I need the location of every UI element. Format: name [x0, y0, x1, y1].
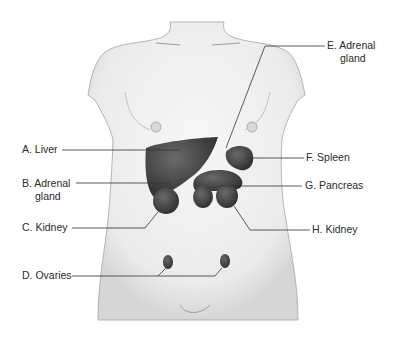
label-adrenal-gland-b: B. Adrenal	[22, 177, 70, 190]
label-adrenal-gland-e: E. Adrenal	[327, 39, 375, 52]
kidney-right-shape	[216, 184, 238, 208]
label-adrenal-gland-b-line2: gland	[35, 190, 61, 203]
label-ovaries: D. Ovaries	[22, 269, 72, 282]
label-spleen: F. Spleen	[306, 151, 350, 164]
label-pancreas: G. Pancreas	[305, 179, 363, 192]
kidney-left-shape	[153, 188, 179, 214]
label-kidney-h: H. Kidney	[312, 223, 358, 236]
kidney-mid-shape	[193, 186, 213, 208]
label-adrenal-gland-e-line2: gland	[340, 52, 366, 65]
anatomy-diagram: A. Liver B. Adrenal gland C. Kidney D. O…	[0, 0, 397, 342]
ovary-left-shape	[163, 255, 173, 269]
label-liver: A. Liver	[22, 143, 58, 156]
ovary-right-shape	[220, 254, 230, 268]
label-kidney-c: C. Kidney	[22, 221, 68, 234]
